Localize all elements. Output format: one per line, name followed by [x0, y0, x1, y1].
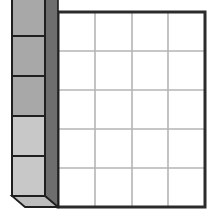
stacked-block-grid-figure: [0, 0, 214, 219]
block-segment-front: [12, 156, 45, 196]
block-segment-front: [12, 76, 45, 116]
block-segment-front: [12, 0, 45, 36]
diagram-canvas: [0, 0, 214, 219]
block-segment-front: [12, 36, 45, 76]
stacked-3d-block: [12, 0, 58, 207]
block-side-face: [45, 0, 58, 207]
block-segment-front: [12, 116, 45, 156]
table-grid: [58, 12, 205, 207]
